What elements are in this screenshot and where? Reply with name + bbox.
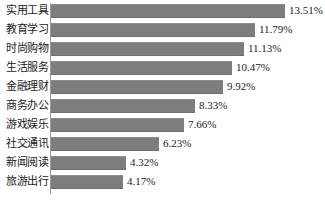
bar xyxy=(51,23,255,37)
bar-row: 生活服务10.47% xyxy=(0,61,325,75)
category-label: 教育学习 xyxy=(0,22,49,38)
category-label: 生活服务 xyxy=(0,60,49,76)
bar xyxy=(51,4,285,18)
value-label: 4.32% xyxy=(130,154,158,170)
bar-row: 商务办公8.33% xyxy=(0,99,325,113)
bar-row: 教育学习11.79% xyxy=(0,23,325,37)
bar xyxy=(51,118,184,132)
value-label: 7.66% xyxy=(188,116,216,132)
value-label: 10.47% xyxy=(236,59,270,75)
category-label: 社交通讯 xyxy=(0,136,49,152)
value-label: 9.92% xyxy=(227,78,255,94)
bar-row: 新闻阅读4.32% xyxy=(0,156,325,170)
bar xyxy=(51,61,232,75)
bar-row: 游戏娱乐7.66% xyxy=(0,118,325,132)
bar-row: 实用工具13.51% xyxy=(0,4,325,18)
category-label: 时尚购物 xyxy=(0,41,49,57)
bar xyxy=(51,156,126,170)
category-label: 旅游出行 xyxy=(0,174,49,190)
value-label: 4.17% xyxy=(127,173,155,189)
bar-row: 时尚购物11.13% xyxy=(0,42,325,56)
value-label: 13.51% xyxy=(289,2,323,18)
bar xyxy=(51,80,223,94)
bar-row: 旅游出行4.17% xyxy=(0,175,325,189)
value-label: 8.33% xyxy=(199,97,227,113)
bar-chart: 实用工具13.51%教育学习11.79%时尚购物11.13%生活服务10.47%… xyxy=(0,0,325,204)
value-label: 6.23% xyxy=(163,135,191,151)
bar xyxy=(51,175,123,189)
category-label: 金融理财 xyxy=(0,79,49,95)
category-label: 商务办公 xyxy=(0,98,49,114)
bar-row: 社交通讯6.23% xyxy=(0,137,325,151)
bar xyxy=(51,42,244,56)
value-label: 11.13% xyxy=(248,40,282,56)
bar xyxy=(51,137,159,151)
bar xyxy=(51,99,195,113)
category-label: 新闻阅读 xyxy=(0,155,49,171)
value-label: 11.79% xyxy=(259,21,293,37)
category-label: 实用工具 xyxy=(0,3,49,19)
category-label: 游戏娱乐 xyxy=(0,117,49,133)
bar-row: 金融理财9.92% xyxy=(0,80,325,94)
